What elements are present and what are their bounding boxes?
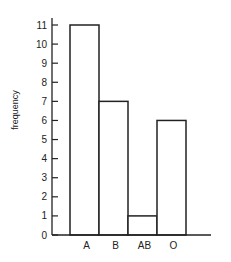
y-tick-label: 0 <box>41 230 47 241</box>
y-tick-label: 4 <box>41 153 47 164</box>
bar-a <box>70 25 99 235</box>
bar-b <box>99 101 128 235</box>
y-tick-label: 3 <box>41 172 47 183</box>
y-tick-label: 9 <box>41 58 47 69</box>
x-tick-label: B <box>112 240 119 251</box>
y-tick-label: 1 <box>41 210 47 221</box>
y-tick-label: 11 <box>37 20 48 31</box>
bar-o <box>157 120 186 235</box>
y-axis-label: frequency <box>10 90 20 130</box>
y-tick-label: 2 <box>41 191 47 202</box>
x-tick-label: O <box>170 240 178 251</box>
y-tick-label: 7 <box>41 96 47 107</box>
y-tick-label: 8 <box>41 77 47 88</box>
y-tick-label: 6 <box>41 115 47 126</box>
bar-chart: frequency 01234567891011 ABABO <box>0 0 231 262</box>
bar-ab <box>128 216 157 235</box>
x-tick-label: A <box>83 240 90 251</box>
x-tick-label: AB <box>138 240 152 251</box>
y-tick-label: 5 <box>41 134 47 145</box>
y-tick-label: 10 <box>36 39 48 50</box>
